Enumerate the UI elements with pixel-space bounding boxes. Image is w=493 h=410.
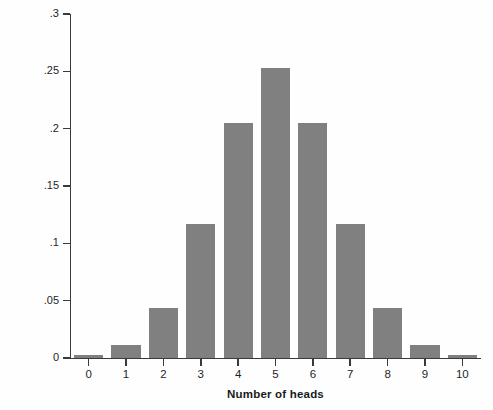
x-tick-mark [349,359,351,366]
x-tick-mark [200,359,202,366]
bar [111,345,140,358]
y-tick-mark [63,185,70,187]
y-tick-label: .25 [10,65,59,76]
x-tick-label: 0 [69,369,109,381]
bar [448,355,477,358]
y-tick-label: .1 [10,237,59,248]
x-tick-mark [88,359,90,366]
y-tick-mark [63,13,70,15]
y-tick-label: .15 [10,180,59,191]
bar [224,123,253,358]
x-tick-mark [125,359,127,366]
bar-series [70,14,481,358]
bar [336,224,365,358]
y-tick-mark [63,243,70,245]
x-tick-label: 7 [330,369,370,381]
bar [186,224,215,358]
y-tick-mark [63,128,70,130]
y-tick-label: .3 [10,8,59,19]
chart-figure: Probability 0.05.1.15.2.25.3 01234567891… [0,0,493,410]
x-tick-label: 3 [181,369,221,381]
y-tick-mark [63,357,70,359]
bar [261,68,290,358]
x-tick-label: 6 [293,369,333,381]
y-tick-label: 0 [10,352,59,363]
bar [373,308,402,358]
x-tick-mark [387,359,389,366]
bar [298,123,327,358]
x-tick-label: 1 [106,369,146,381]
y-tick-mark [63,71,70,73]
x-tick-mark [424,359,426,366]
bar [410,345,439,358]
x-tick-label: 10 [442,369,482,381]
x-tick-mark [163,359,165,366]
x-tick-label: 8 [368,369,408,381]
x-tick-label: 5 [256,369,296,381]
x-axis-title: Number of heads [70,388,481,400]
x-tick-label: 9 [405,369,445,381]
bar [149,308,178,358]
x-tick-label: 4 [218,369,258,381]
x-tick-mark [462,359,464,366]
x-tick-mark [237,359,239,366]
x-tick-mark [275,359,277,366]
y-tick-label: .05 [10,295,59,306]
y-tick-mark [63,300,70,302]
x-tick-label: 2 [143,369,183,381]
y-tick-label: .2 [10,123,59,134]
x-tick-mark [312,359,314,366]
bar [74,355,103,358]
